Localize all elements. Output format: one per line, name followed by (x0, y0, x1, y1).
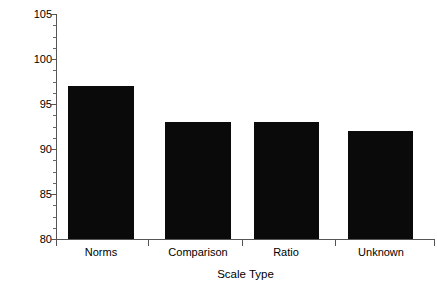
plot-area (56, 14, 435, 239)
bar (165, 122, 231, 239)
y-tick-minor (53, 115, 57, 116)
category-label: Comparison (168, 246, 227, 258)
y-tick-minor (53, 48, 57, 49)
y-tick-label: 80 (22, 234, 52, 245)
category-label: Ratio (273, 246, 299, 258)
x-axis-line (56, 239, 435, 240)
y-tick-minor (53, 37, 57, 38)
y-tick-label: 85 (22, 189, 52, 200)
bar (68, 86, 134, 239)
y-tick-minor (53, 25, 57, 26)
y-tick-minor (53, 228, 57, 229)
y-tick-minor (53, 82, 57, 83)
y-tick-minor (53, 138, 57, 139)
bar (348, 131, 413, 239)
y-tick-major (51, 14, 57, 15)
y-tick-minor (53, 205, 57, 206)
x-tick (148, 240, 149, 246)
y-tick-minor (53, 160, 57, 161)
y-tick-label: 100 (22, 54, 52, 65)
y-tick-label: 95 (22, 99, 52, 110)
bar (254, 122, 319, 239)
category-label: Unknown (358, 246, 404, 258)
bar-chart-figure: IQ (M=100, SD=15) 80859095100105 NormsCo… (0, 0, 437, 292)
y-tick-minor (53, 127, 57, 128)
y-tick-major (51, 59, 57, 60)
x-tick (242, 240, 243, 246)
y-tick-minor (53, 183, 57, 184)
y-tick-minor (53, 93, 57, 94)
y-tick-label: 105 (22, 9, 52, 20)
y-tick-minor (53, 172, 57, 173)
y-tick-major (51, 194, 57, 195)
x-tick-end (56, 240, 57, 246)
y-tick-minor (53, 217, 57, 218)
y-tick-minor (53, 70, 57, 71)
y-tick-major (51, 149, 57, 150)
x-tick-end (434, 240, 435, 246)
x-tick (335, 240, 336, 246)
y-tick-label: 90 (22, 144, 52, 155)
x-axis-title: Scale Type (56, 268, 435, 280)
category-label: Norms (85, 246, 117, 258)
y-axis-tick-labels: 80859095100105 (20, 0, 52, 292)
y-tick-major (51, 104, 57, 105)
